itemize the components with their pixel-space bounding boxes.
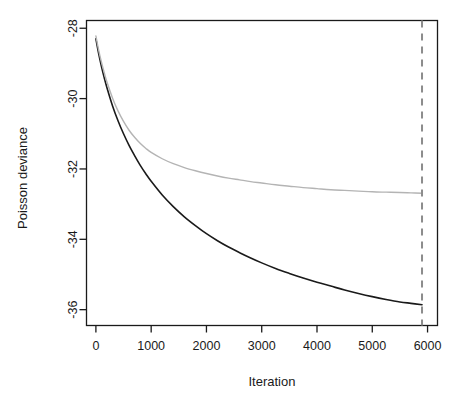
x-tick-label: 6000 [414,339,442,353]
y-axis-title: Poisson deviance [15,127,30,229]
x-axis-title: Iteration [249,374,296,389]
poisson-deviance-chart: 0100020003000400050006000 -28-30-32-34-3… [0,0,455,408]
chart-background [0,0,455,408]
x-tick-label: 1000 [137,339,165,353]
x-tick-label: 4000 [303,339,331,353]
x-tick-label: 3000 [248,339,276,353]
y-tick-label: -36 [66,301,80,319]
chart-canvas: 0100020003000400050006000 -28-30-32-34-3… [0,0,455,408]
y-tick-label: -30 [66,90,80,108]
x-tick-label: 2000 [193,339,221,353]
x-tick-label: 5000 [358,339,386,353]
y-tick-label: -34 [66,230,80,248]
y-tick-label: -28 [66,19,80,37]
x-tick-label: 0 [92,339,99,353]
y-tick-label: -32 [66,160,80,178]
